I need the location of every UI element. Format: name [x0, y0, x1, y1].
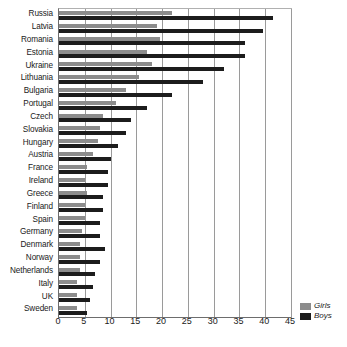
- bar-boys: [59, 311, 87, 315]
- bar-group: [59, 253, 291, 266]
- bar-boys: [59, 54, 245, 58]
- bar-group: [59, 86, 291, 99]
- bar-boys: [59, 157, 111, 161]
- axis-tick-label: 0: [55, 317, 60, 326]
- category-label: Lithuania: [0, 72, 56, 85]
- bar-group: [59, 137, 291, 150]
- bar-girls: [59, 293, 77, 297]
- bar-group: [59, 163, 291, 176]
- bar-boys: [59, 144, 118, 148]
- category-label: Bulgaria: [0, 85, 56, 98]
- bar-girls: [59, 165, 87, 169]
- bar-group: [59, 291, 291, 304]
- category-label: Slovakia: [0, 123, 56, 136]
- axis-tick-label: 40: [259, 317, 269, 326]
- category-label: Portugal: [0, 98, 56, 111]
- bar-boys: [59, 29, 263, 33]
- bar-girls: [59, 203, 85, 207]
- category-label: Greece: [0, 188, 56, 201]
- category-label: Ukraine: [0, 59, 56, 72]
- bar-girls: [59, 50, 147, 54]
- category-label: Austria: [0, 149, 56, 162]
- axis-tick-label: 10: [105, 317, 115, 326]
- bar-girls: [59, 37, 160, 41]
- bar-boys: [59, 106, 147, 110]
- bar-group: [59, 47, 291, 60]
- category-label: Norway: [0, 252, 56, 265]
- bar-girls: [59, 268, 80, 272]
- bar-group: [59, 73, 291, 86]
- bar-girls: [59, 242, 80, 246]
- bar-boys: [59, 183, 108, 187]
- category-label: Sweden: [0, 303, 56, 316]
- bar-girls: [59, 24, 157, 28]
- bar-girls: [59, 152, 93, 156]
- bar-group: [59, 304, 291, 317]
- category-label: Latvia: [0, 21, 56, 34]
- legend-swatch-icon: [300, 303, 311, 310]
- bar-boys: [59, 247, 105, 251]
- bar-boys: [59, 41, 245, 45]
- axis-tick-label: 15: [130, 317, 140, 326]
- bar-girls: [59, 75, 139, 79]
- bar-group: [59, 99, 291, 112]
- category-label: Russia: [0, 8, 56, 21]
- bar-girls: [59, 216, 85, 220]
- bar-boys: [59, 80, 203, 84]
- category-label: Ireland: [0, 175, 56, 188]
- plot-area: [58, 8, 292, 318]
- bar-boys: [59, 208, 103, 212]
- bar-group: [59, 9, 291, 22]
- bar-group: [59, 266, 291, 279]
- legend-item-boys: Boys: [300, 312, 332, 320]
- bar-girls: [59, 11, 172, 15]
- bar-group: [59, 112, 291, 125]
- bar-boys: [59, 118, 131, 122]
- bar-series-container: [59, 9, 291, 317]
- bar-group: [59, 240, 291, 253]
- axis-tick-label: 5: [81, 317, 86, 326]
- bar-boys: [59, 298, 90, 302]
- bar-girls: [59, 280, 77, 284]
- chart-legend: GirlsBoys: [300, 302, 332, 320]
- bar-girls: [59, 255, 80, 259]
- bar-boys: [59, 260, 100, 264]
- bar-chart: RussiaLatviaRomaniaEstoniaUkraineLithuan…: [0, 0, 347, 347]
- bar-boys: [59, 131, 126, 135]
- axis-tick-label: 45: [285, 317, 295, 326]
- legend-item-girls: Girls: [300, 302, 332, 310]
- bar-boys: [59, 272, 95, 276]
- bar-girls: [59, 114, 103, 118]
- gridline: [291, 9, 292, 317]
- legend-label: Boys: [314, 312, 332, 320]
- category-label: Estonia: [0, 46, 56, 59]
- bar-group: [59, 201, 291, 214]
- bar-group: [59, 227, 291, 240]
- bar-boys: [59, 67, 224, 71]
- category-label: Hungary: [0, 136, 56, 149]
- axis-tick-label: 35: [233, 317, 243, 326]
- legend-label: Girls: [314, 302, 330, 310]
- bar-girls: [59, 126, 100, 130]
- bar-girls: [59, 178, 85, 182]
- bar-girls: [59, 191, 87, 195]
- category-label: Finland: [0, 200, 56, 213]
- category-label: UK: [0, 290, 56, 303]
- category-label: Denmark: [0, 239, 56, 252]
- category-label: Czech: [0, 111, 56, 124]
- category-axis-labels: RussiaLatviaRomaniaEstoniaUkraineLithuan…: [0, 8, 56, 316]
- bar-boys: [59, 93, 172, 97]
- bar-girls: [59, 306, 77, 310]
- bar-group: [59, 214, 291, 227]
- bar-girls: [59, 101, 116, 105]
- bar-group: [59, 189, 291, 202]
- category-label: France: [0, 162, 56, 175]
- bar-boys: [59, 195, 103, 199]
- bar-boys: [59, 285, 93, 289]
- category-label: Netherlands: [0, 265, 56, 278]
- bar-boys: [59, 221, 100, 225]
- bar-girls: [59, 229, 82, 233]
- bar-boys: [59, 234, 100, 238]
- category-label: Italy: [0, 277, 56, 290]
- category-label: Romania: [0, 34, 56, 47]
